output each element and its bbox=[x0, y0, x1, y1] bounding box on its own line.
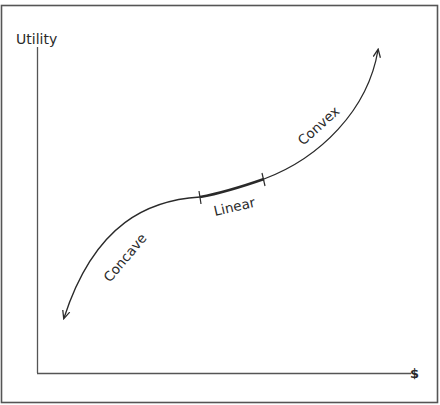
linear-label: Linear bbox=[212, 194, 257, 219]
y-axis-label: Utility bbox=[16, 31, 57, 47]
utility-function-diagram: Utility $ Concave Linear Convex bbox=[0, 0, 440, 405]
linear-segment bbox=[200, 179, 264, 197]
x-axis-label: $ bbox=[410, 366, 419, 381]
convex-label: Convex bbox=[294, 103, 342, 149]
